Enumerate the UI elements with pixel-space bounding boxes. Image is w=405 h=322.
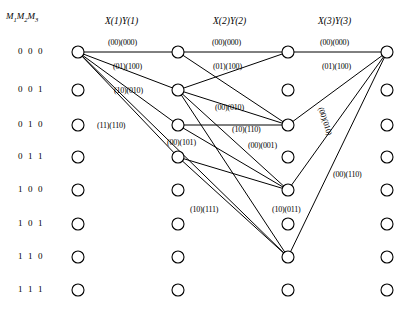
edge-label: (00)(010) — [215, 103, 244, 112]
trellis-node — [381, 184, 393, 196]
edge-label: (11)(110) — [97, 121, 125, 130]
trellis-node — [172, 284, 184, 296]
edge-label: (00)(110) — [333, 170, 362, 179]
trellis-node — [172, 119, 184, 131]
trellis-node — [172, 84, 184, 96]
trellis-node — [172, 184, 184, 196]
edge-label: (00)(101) — [167, 138, 196, 147]
trellis-node — [381, 251, 393, 263]
edges-group — [78, 52, 387, 257]
edge-label: (10)(010) — [114, 86, 143, 95]
edge-label: (01)(100) — [213, 62, 242, 71]
edge-label: (00)(001) — [248, 141, 277, 150]
trellis-node — [172, 251, 184, 263]
trellis-node — [282, 119, 294, 131]
trellis-node — [72, 251, 84, 263]
trellis-node — [172, 151, 184, 163]
edge-label: (00)(000) — [320, 38, 349, 47]
trellis-edge — [288, 52, 387, 257]
trellis-node — [72, 284, 84, 296]
edge-label: (01)(100) — [322, 62, 351, 71]
trellis-node — [172, 46, 184, 58]
trellis-node — [381, 84, 393, 96]
trellis-node — [172, 218, 184, 230]
trellis-node — [282, 151, 294, 163]
trellis-diagram-figure: M1M2M3 X(1)Y(1)X(2)Y(2)X(3)Y(3) 0 0 00 0… — [0, 0, 405, 322]
trellis-node — [381, 119, 393, 131]
edge-label: (01)(100) — [113, 62, 142, 71]
trellis-node — [282, 251, 294, 263]
edge-label: (10)(011) — [272, 205, 301, 214]
edge-label: (10)(110) — [232, 125, 261, 134]
trellis-node — [282, 84, 294, 96]
trellis-node — [381, 218, 393, 230]
trellis-edge — [178, 125, 288, 190]
trellis-canvas — [0, 0, 405, 322]
trellis-node — [282, 46, 294, 58]
trellis-edge — [178, 157, 288, 190]
trellis-edge — [78, 52, 178, 90]
trellis-node — [282, 284, 294, 296]
trellis-node — [72, 84, 84, 96]
trellis-node — [282, 184, 294, 196]
trellis-node — [72, 184, 84, 196]
trellis-node — [381, 46, 393, 58]
trellis-node — [72, 46, 84, 58]
trellis-node — [72, 151, 84, 163]
trellis-node — [282, 218, 294, 230]
edge-label: (10)(111) — [190, 205, 218, 214]
trellis-node — [72, 119, 84, 131]
trellis-node — [381, 151, 393, 163]
edge-label: (00)(000) — [212, 38, 241, 47]
trellis-edge — [178, 52, 288, 90]
trellis-node — [381, 284, 393, 296]
trellis-node — [72, 218, 84, 230]
edge-label: (00)(000) — [108, 38, 137, 47]
